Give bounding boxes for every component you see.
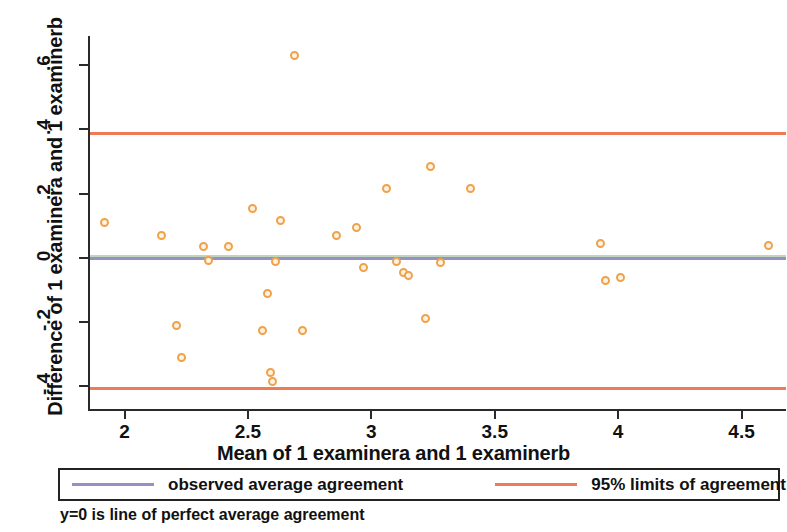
x-tick-label: 3.5	[460, 421, 530, 443]
scatter-point	[426, 162, 435, 171]
upper-limit-of-agreement-line	[90, 132, 786, 135]
y-tick-mark	[79, 321, 89, 323]
y-tick-label: 0	[33, 226, 55, 286]
legend-item-observed-average-agreement: observed average agreement	[72, 475, 403, 495]
scatter-point	[596, 239, 605, 248]
scatter-point	[436, 258, 445, 267]
legend-label-limits-of-agreement: 95% limits of agreement	[591, 475, 786, 495]
x-axis-line	[88, 409, 786, 411]
scatter-point	[268, 377, 277, 386]
scatter-point	[290, 51, 299, 60]
x-tick-mark	[370, 410, 372, 419]
x-tick-mark	[124, 410, 126, 419]
scatter-point	[177, 353, 186, 362]
y-tick-mark	[79, 257, 89, 259]
scatter-point	[204, 256, 213, 265]
scatter-point	[199, 242, 208, 251]
scatter-point	[298, 326, 307, 335]
scatter-point	[248, 204, 257, 213]
x-tick-mark	[247, 410, 249, 419]
y-tick-label: -.2	[33, 290, 55, 350]
x-tick-label: 2	[90, 421, 160, 443]
x-tick-label: 4.5	[707, 421, 777, 443]
scatter-point	[421, 314, 430, 323]
scatter-point	[601, 276, 610, 285]
scatter-point	[404, 271, 413, 280]
y-tick-label: .6	[33, 33, 55, 93]
scatter-point	[616, 273, 625, 282]
lower-limit-of-agreement-line	[90, 387, 786, 390]
scatter-point	[352, 223, 361, 232]
legend: observed average agreement 95% limits of…	[58, 468, 780, 501]
legend-line-swatch-purple	[72, 483, 154, 486]
y-tick-label: .4	[33, 97, 55, 157]
scatter-point	[263, 289, 272, 298]
x-tick-mark	[494, 410, 496, 419]
y-tick-mark	[79, 193, 89, 195]
legend-label-observed-average-agreement: observed average agreement	[168, 475, 403, 495]
plot-area	[90, 36, 786, 409]
scatter-point	[157, 231, 166, 240]
scatter-point	[224, 242, 233, 251]
scatter-point	[392, 257, 401, 266]
bland-altman-chart: Difference of 1 examinera and 1 examiner…	[0, 0, 787, 532]
chart-footnote: y=0 is line of perfect average agreement	[60, 506, 365, 524]
scatter-point	[266, 368, 275, 377]
scatter-point	[764, 241, 773, 250]
scatter-point	[466, 184, 475, 193]
scatter-point	[359, 263, 368, 272]
x-tick-mark	[617, 410, 619, 419]
scatter-point	[382, 184, 391, 193]
scatter-point	[172, 321, 181, 330]
x-tick-label: 2.5	[213, 421, 283, 443]
scatter-point	[271, 257, 280, 266]
scatter-point	[100, 218, 109, 227]
legend-item-limits-of-agreement: 95% limits of agreement	[495, 475, 786, 495]
legend-line-swatch-orange	[495, 483, 577, 486]
y-tick-label: -.4	[33, 354, 55, 414]
scatter-point	[332, 231, 341, 240]
y-tick-mark	[79, 385, 89, 387]
y-tick-mark	[79, 64, 89, 66]
scatter-point	[276, 216, 285, 225]
x-tick-label: 4	[583, 421, 653, 443]
scatter-point	[258, 326, 267, 335]
x-axis-title: Mean of 1 examinera and 1 examinerb	[0, 442, 787, 465]
y-tick-label: .2	[33, 162, 55, 222]
x-tick-mark	[741, 410, 743, 419]
x-tick-label: 3	[336, 421, 406, 443]
y-tick-mark	[79, 128, 89, 130]
